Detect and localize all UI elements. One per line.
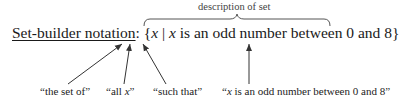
annotation-all-x: “all x”: [106, 85, 134, 97]
variable-x-2: x: [169, 24, 176, 41]
arrow-the-set-of: [68, 44, 122, 84]
set-builder-expression: Set-builder notation: {x | x is an odd n…: [12, 24, 399, 42]
variable-x: x: [151, 24, 158, 41]
colon: :: [136, 24, 140, 41]
annotation-such-that: “such that”: [153, 85, 202, 97]
notation-label: Set-builder notation: [12, 24, 136, 41]
brace-label: description of set: [198, 1, 270, 12]
annotation-the-set-of: “the set of”: [40, 85, 90, 97]
such-that-bar: |: [162, 24, 165, 41]
close-brace: }: [392, 24, 399, 41]
annotation-description: “x is an odd number between 0 and 8”: [222, 85, 390, 97]
arrow-such-that: [143, 44, 166, 84]
set-description: is an odd number between 0 and 8: [180, 24, 392, 41]
arrow-all-x: [124, 44, 130, 84]
